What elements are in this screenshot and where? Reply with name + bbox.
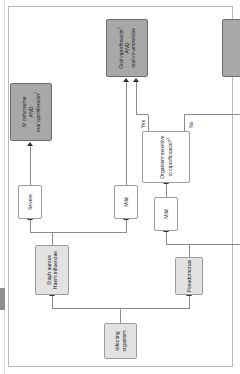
edge-decision-yes-v xyxy=(136,114,148,115)
arrow-severe-to-cefuroxime xyxy=(27,142,33,146)
label-branch-yes: Yes xyxy=(140,120,146,128)
node-decision-label-line2: to ciprofloxacin? xyxy=(166,140,172,177)
edge-staph-mild xyxy=(126,219,127,233)
node-decision-footnote-marker: 1 xyxy=(166,138,170,140)
arrow-mild-to-oralcipro xyxy=(123,78,129,82)
node-severity-severe-staph-label: Severe xyxy=(27,186,33,218)
edge-staph-split xyxy=(30,232,126,233)
node-severity-mild-pseudomonas[interactable]: Mild xyxy=(154,197,178,231)
edge-decision-no-v xyxy=(184,114,240,115)
node-severity-mild-pseudomonas-label: Mild xyxy=(163,198,169,230)
outcome-cefuroxime-footnote-marker: 1 xyxy=(34,92,38,94)
node-pseudomonas[interactable]: Pseudomonas xyxy=(175,257,203,295)
edge-mild-to-decision xyxy=(166,183,167,197)
edge-root-out xyxy=(120,309,121,323)
node-severity-mild-staph[interactable]: Mild xyxy=(114,185,138,219)
edge-to-pseudomonas xyxy=(189,295,190,309)
edge-severe-to-cefuroxime xyxy=(30,145,31,185)
outcome-oralcipro-footnote-marker: 1 xyxy=(117,27,121,29)
edge-decision-no xyxy=(184,115,185,131)
flowchart-canvas: Infecting organism Staph aureus Haem inf… xyxy=(8,6,233,367)
outcome-oralcipro-line1: Oral ciprofloxacin xyxy=(118,29,124,68)
node-pseudomonas-label: Pseudomonas xyxy=(186,258,192,295)
node-staph-haem[interactable]: Staph aureus Haem influenzae xyxy=(35,245,69,295)
node-decision-label-line1: Organism sensitive xyxy=(159,134,165,180)
page-root: Infecting organism Staph aureus Haem inf… xyxy=(0,0,240,374)
page-gutter-line xyxy=(4,0,5,374)
edge-decision-yes-h xyxy=(136,81,137,115)
arrow-decision-yes xyxy=(133,78,139,82)
label-branch-no: No xyxy=(188,121,194,128)
rotated-diagram-wrapper: Infecting organism Staph aureus Haem inf… xyxy=(8,6,233,367)
node-outcome-iv-betalactam[interactable]: IV β-lactam AND IV tobramycin OR IV coli… xyxy=(222,19,240,77)
outcome-oralcipro-line3: oral co-amoxiclav xyxy=(130,22,136,74)
node-infecting-organism-label: Infecting organism xyxy=(114,324,126,358)
edge-pseudomonas-split xyxy=(166,244,240,245)
edge-pseudo-mild xyxy=(166,231,167,245)
edge-pseudomonas-out xyxy=(189,245,190,257)
node-severity-severe-staph[interactable]: Severe xyxy=(18,185,42,219)
node-staph-label-line2: Haem influenzae xyxy=(52,248,58,292)
edge-to-staph xyxy=(52,295,53,309)
edge-staph-severe xyxy=(30,219,31,233)
node-decision-cipro-sensitivity[interactable]: Organism sensitive to ciprofloxacin?1 xyxy=(142,131,190,183)
node-severity-mild-staph-label: Mild xyxy=(123,186,129,218)
edge-staph-out xyxy=(52,233,53,245)
node-outcome-oral-ciprofloxacin[interactable]: Oral ciprofloxacin1 AND oral co-amoxicla… xyxy=(106,19,148,77)
node-outcome-iv-cefuroxime[interactable]: IV cefuroxime AND oral ciprofloxacin1 xyxy=(10,83,52,141)
page-edge-mark xyxy=(0,288,5,310)
edge-root-split xyxy=(52,308,189,309)
outcome-cefuroxime-line3: oral ciprofloxacin xyxy=(34,94,40,132)
edge-decision-yes xyxy=(148,115,149,131)
edge-mild-to-oralcipro xyxy=(126,81,127,185)
node-infecting-organism[interactable]: Infecting organism xyxy=(104,323,137,359)
